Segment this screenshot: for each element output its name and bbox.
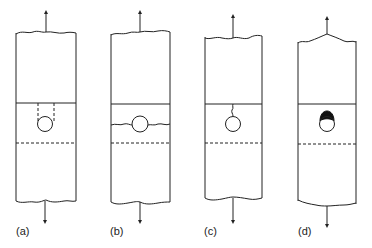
panel-label-b: (b) xyxy=(110,225,123,237)
hole xyxy=(132,116,148,132)
panel-d xyxy=(298,18,356,226)
hole xyxy=(226,117,241,132)
panel-a xyxy=(16,12,76,222)
hole xyxy=(38,117,53,132)
panel-c xyxy=(205,16,262,222)
bottom-wavy-edge xyxy=(298,200,356,206)
diagram-canvas xyxy=(0,0,372,248)
panel-label-a: (a) xyxy=(16,225,29,237)
panel-label-c: (c) xyxy=(204,225,217,237)
crack-left xyxy=(111,124,132,125)
crack xyxy=(232,104,233,116)
panel-b xyxy=(111,12,170,222)
crack-right xyxy=(148,124,170,125)
top-wavy-edge xyxy=(298,34,356,43)
bottom-wavy-edge xyxy=(16,200,76,202)
panel-label-d: (d) xyxy=(298,225,311,237)
